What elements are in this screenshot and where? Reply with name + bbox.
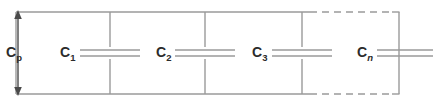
- label-c2-symbol: C: [156, 44, 166, 60]
- label-c1: C1: [60, 45, 75, 62]
- label-c1-symbol: C: [60, 44, 70, 60]
- label-c2-subscript: 2: [166, 52, 171, 63]
- label-c3-subscript: 3: [262, 52, 267, 63]
- label-cp-symbol: C: [6, 44, 16, 60]
- capacitors-in-parallel-figure: Cp C1 C2 C3 Cn: [0, 0, 440, 106]
- label-c1-subscript: 1: [70, 52, 75, 63]
- label-cp: Cp: [6, 45, 22, 62]
- label-cn: Cn: [357, 45, 373, 62]
- label-cn-subscript: n: [367, 52, 373, 63]
- label-c2: C2: [156, 45, 171, 62]
- label-cn-symbol: C: [357, 44, 367, 60]
- label-c3-symbol: C: [252, 44, 262, 60]
- label-cp-subscript: p: [16, 52, 22, 63]
- label-c3: C3: [252, 45, 267, 62]
